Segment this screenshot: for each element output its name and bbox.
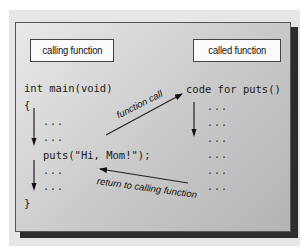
function-call-arrow bbox=[106, 94, 182, 135]
flow-arrows bbox=[0, 0, 308, 250]
down-arrow-icon bbox=[32, 108, 37, 146]
return-arrow bbox=[100, 169, 188, 183]
down-arrow-icon bbox=[32, 160, 37, 191]
down-arrow-icon bbox=[192, 102, 197, 137]
